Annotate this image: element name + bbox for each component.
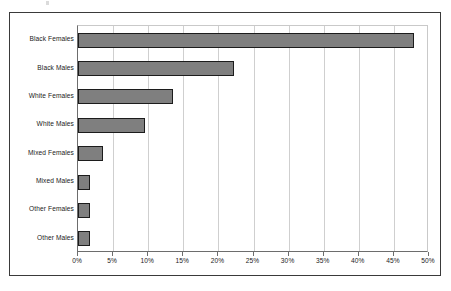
bar-slot <box>78 61 429 76</box>
bar-slot <box>78 146 429 161</box>
category-label: Black Females <box>10 35 74 43</box>
x-axis-tick-label: 5% <box>107 257 117 264</box>
x-axis-tick <box>182 252 183 256</box>
bar[interactable] <box>78 118 145 133</box>
chart-frame: Black FemalesBlack MalesWhite FemalesWhi… <box>9 12 441 276</box>
x-axis-tick-label: 35% <box>316 257 330 264</box>
x-axis-tick <box>147 252 148 256</box>
x-axis-tick <box>217 252 218 256</box>
bars-layer <box>78 26 427 251</box>
x-axis-tick-label: 20% <box>211 257 225 264</box>
x-axis-tick <box>288 252 289 256</box>
bar-slot <box>78 33 429 48</box>
bar-slot <box>78 231 429 246</box>
x-axis-tick-label: 0% <box>72 257 82 264</box>
category-label: Other Males <box>10 234 74 242</box>
x-axis-tick-label: 10% <box>140 257 154 264</box>
category-label: Mixed Females <box>10 149 74 157</box>
x-axis-tick <box>323 252 324 256</box>
scan-speck-artifact <box>46 1 49 5</box>
category-axis-labels: Black FemalesBlack MalesWhite FemalesWhi… <box>10 25 74 252</box>
plot-area <box>77 25 428 252</box>
bar[interactable] <box>78 61 234 76</box>
x-axis-tick <box>358 252 359 256</box>
x-axis-tick-label: 15% <box>176 257 190 264</box>
category-label: Black Males <box>10 64 74 72</box>
bar[interactable] <box>78 231 90 246</box>
x-axis-tick <box>428 252 429 256</box>
x-axis-tick-label: 40% <box>351 257 365 264</box>
bar[interactable] <box>78 89 173 104</box>
bar[interactable] <box>78 146 103 161</box>
bar[interactable] <box>78 203 90 218</box>
x-axis-tick-label: 50% <box>421 257 435 264</box>
bar-chart-figure: Black FemalesBlack MalesWhite FemalesWhi… <box>0 0 451 291</box>
x-axis-tick-label: 30% <box>281 257 295 264</box>
x-axis-tick <box>112 252 113 256</box>
category-label: White Males <box>10 120 74 128</box>
x-axis-tick-label: 25% <box>246 257 260 264</box>
x-axis-tick <box>77 252 78 256</box>
x-axis-tick-label: 45% <box>386 257 400 264</box>
bar-slot <box>78 175 429 190</box>
bar-slot <box>78 89 429 104</box>
bar[interactable] <box>78 33 414 48</box>
x-axis-tick <box>393 252 394 256</box>
bar-slot <box>78 203 429 218</box>
x-axis-tick <box>253 252 254 256</box>
bar-slot <box>78 118 429 133</box>
category-label: White Females <box>10 92 74 100</box>
category-label: Other Females <box>10 205 74 213</box>
bar[interactable] <box>78 175 90 190</box>
category-label: Mixed Males <box>10 177 74 185</box>
